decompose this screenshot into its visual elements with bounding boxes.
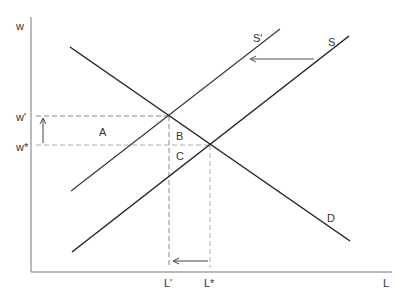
l-prime-label: L' (164, 277, 172, 289)
supply-label: S (328, 36, 335, 48)
labor-market-diagram: w L w' w* L' L* S' S D A B C (0, 0, 404, 296)
supply-shifted-label: S' (253, 32, 262, 44)
x-axis-label: L (383, 277, 389, 289)
area-b-label: B (176, 130, 183, 142)
supply-shift-arrow-icon (250, 56, 314, 62)
employment-left-arrow-icon (173, 258, 208, 264)
y-axis-label: w (15, 20, 24, 32)
area-a-label: A (99, 126, 107, 138)
supply-curve-shifted (71, 29, 280, 191)
wage-up-arrow-icon (40, 118, 46, 143)
area-c-label: C (176, 150, 184, 162)
l-star-label: L* (204, 277, 215, 289)
w-prime-label: w' (15, 111, 26, 123)
w-star-label: w* (15, 141, 29, 153)
demand-label: D (327, 212, 335, 224)
